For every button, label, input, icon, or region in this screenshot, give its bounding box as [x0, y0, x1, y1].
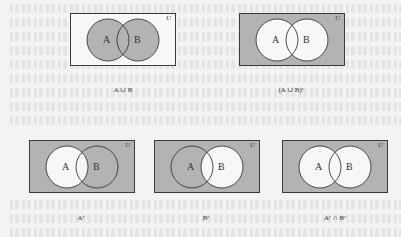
set-b-label: B — [303, 34, 310, 45]
universe-label: U — [378, 141, 383, 149]
venn-diagram-a-complement-intersect-b-complement — [282, 140, 388, 193]
caption-b-complement: Bᶜ — [203, 214, 209, 222]
caption-a-union-b-complement: (A ∪ B)ᶜ — [278, 86, 303, 94]
set-a-label: A — [315, 161, 322, 172]
caption-a-union-b: A ∪ B — [114, 86, 133, 94]
set-b-label: B — [346, 161, 353, 172]
set-b-label: B — [134, 34, 141, 45]
venn-diagram-a-union-b-complement — [239, 13, 345, 66]
set-a-label: A — [62, 161, 69, 172]
set-b-label: B — [218, 161, 225, 172]
caption-a-complement: Aᶜ — [78, 214, 85, 222]
venn-diagram-b-complement — [154, 140, 260, 193]
set-b-label: B — [93, 161, 100, 172]
set-a-label: A — [272, 34, 279, 45]
universe-label: U — [166, 14, 171, 22]
universe-label: U — [125, 141, 130, 149]
caption-a-complement-intersect-b-complement: Aᶜ ∩ Bᶜ — [324, 214, 346, 222]
universe-label: U — [250, 141, 255, 149]
set-a-label: A — [103, 34, 110, 45]
universe-label: U — [335, 14, 340, 22]
set-a-label: A — [187, 161, 194, 172]
venn-diagram-a-complement — [29, 140, 135, 193]
venn-diagram-a-union-b — [70, 13, 176, 66]
